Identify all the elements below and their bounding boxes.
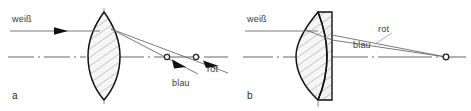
optics-figure: weiß blau rot a weiß rot blau b <box>0 0 471 111</box>
panel-a-group <box>8 8 228 104</box>
panel-b-caption: b <box>247 90 253 101</box>
panel-a-incoming-arrowhead <box>54 27 68 35</box>
panel-a-biconvex-lens <box>88 12 120 100</box>
panel-b-group <box>243 12 466 107</box>
panel-b-weiss-label: weiß <box>247 14 267 24</box>
panel-b-rot-label: rot <box>378 24 389 34</box>
panel-b-label-leader <box>375 33 392 44</box>
panel-a-rot-label: rot <box>207 64 218 74</box>
figure-vector-canvas <box>0 0 471 111</box>
panel-a-blue-ray-arrowhead <box>172 60 186 69</box>
panel-b-blue-ray <box>332 35 446 57</box>
panel-a-caption: a <box>12 90 18 101</box>
panel-a-red-focal-point <box>193 54 198 59</box>
panel-a-blau-label: blau <box>172 78 190 88</box>
panel-a-weiss-label: weiß <box>12 14 32 24</box>
panel-b-red-ray <box>332 40 446 57</box>
panel-a-blue-focal-point <box>164 54 169 59</box>
panel-b-common-focal-point <box>443 54 449 60</box>
panel-a-blue-ray <box>111 29 198 74</box>
panel-b-blau-label: blau <box>353 40 371 50</box>
